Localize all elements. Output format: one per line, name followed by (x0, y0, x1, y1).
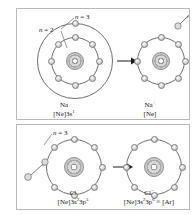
caption-chloride-ion-charge: − (151, 188, 154, 193)
electron (72, 34, 79, 41)
electron (96, 58, 103, 65)
electron (89, 75, 96, 82)
caption-chloride-ion-base: Cl (144, 189, 151, 197)
nucleus-sodium-ion (152, 52, 170, 70)
electron (182, 58, 189, 65)
faint-top-caption (0, 0, 196, 6)
electron (48, 58, 55, 65)
caption-chloride-ion: Cl− [Ne]3s23p6 ≡ [Ar] (108, 189, 190, 207)
electron (134, 58, 141, 65)
electron (99, 164, 106, 171)
free-electron-incoming-icon (23, 157, 51, 183)
figure-root: n = 3 n = 2 (0, 0, 196, 215)
caption-sodium-symbol: Na (34, 101, 94, 110)
electron (72, 82, 79, 89)
caption-sodium-config-base: [Ne]3s (53, 110, 72, 118)
nucleus-sodium (66, 52, 84, 70)
nucleus-chlorine (64, 157, 84, 177)
electron (89, 41, 96, 48)
electron (158, 34, 165, 41)
electron-outer-sodium (72, 20, 79, 27)
electron (131, 144, 138, 151)
nucleus-chloride-ion (144, 157, 164, 177)
electron (123, 164, 130, 171)
caption-sodium-ion-base: Na (145, 101, 153, 109)
electron (175, 75, 182, 82)
caption-chloride-ion-symbol: Cl− (108, 189, 190, 198)
caption-chlorine-config-mid: 3p (79, 198, 86, 206)
electron (175, 41, 182, 48)
caption-chlorine-config: [Ne]3s23p5 (43, 198, 103, 207)
electron (71, 136, 78, 143)
electron (141, 41, 148, 48)
electron (91, 144, 98, 151)
caption-chloride-ion-config-base: [Ne]3s (124, 198, 143, 206)
caption-chlorine-symbol: Cl (43, 189, 103, 198)
electron (51, 144, 58, 151)
caption-sodium-ion-charge: + (153, 100, 156, 105)
electron (141, 75, 148, 82)
electron (158, 82, 165, 89)
caption-chlorine-config-base: [Ne]3s (58, 198, 77, 206)
electron (151, 136, 158, 143)
caption-chloride-ion-config: [Ne]3s23p6 ≡ [Ar] (108, 198, 190, 207)
caption-chlorine-atom: Cl [Ne]3s23p5 (43, 189, 103, 207)
electron (171, 144, 178, 151)
caption-sodium-config-sup: 1 (72, 109, 74, 114)
electron (55, 41, 62, 48)
free-electron-released-icon (167, 13, 191, 35)
electron (179, 164, 186, 171)
caption-sodium-atom: Na [Ne]3s1 (34, 101, 94, 119)
caption-chloride-ion-config-tail: ≡ [Ar] (155, 198, 175, 206)
caption-sodium-ion-config: [Ne] (120, 110, 180, 119)
electron (55, 75, 62, 82)
caption-chlorine-config-sup2: 5 (86, 197, 88, 202)
caption-sodium-ion: Na+ [Ne] (120, 101, 180, 119)
caption-sodium-ion-symbol: Na+ (120, 101, 180, 110)
caption-sodium-config: [Ne]3s1 (34, 110, 94, 119)
